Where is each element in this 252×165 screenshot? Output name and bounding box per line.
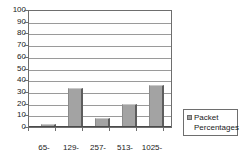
bar-129-256[interactable]	[68, 88, 83, 126]
y-tick-label: 20	[0, 100, 26, 108]
x-tick-label-line1: 129-	[63, 143, 79, 152]
legend-entry-packet-percentages[interactable]: PacketPercentages	[187, 113, 234, 132]
bar-chart: 100 90 80 70 60 50 40 30 20 10 0	[0, 0, 252, 164]
y-tick-label: 90	[0, 18, 26, 26]
x-tick-label-1025-1518: 1025- 1518	[134, 133, 170, 164]
plot-area	[28, 10, 172, 128]
x-tick-label-line1: 65-	[38, 143, 50, 152]
x-tick-mark	[82, 128, 83, 131]
legend-label: PacketPercentages	[194, 113, 239, 132]
x-tick-mark	[109, 128, 110, 131]
x-tick-label-line2: 512	[91, 162, 104, 165]
legend: PacketPercentages	[183, 109, 238, 136]
x-axis: 65- 128 129- 256 257- 512 513- 1024 1025…	[28, 133, 172, 159]
x-tick-label-line2: 128	[37, 162, 50, 165]
x-tick-mark	[28, 128, 29, 131]
x-tick-label-line1: 257-	[90, 143, 106, 152]
legend-label-line2: Percentages	[194, 123, 239, 132]
bar-257-512[interactable]	[95, 118, 110, 126]
legend-swatch-icon	[187, 115, 192, 120]
y-tick-label: 70	[0, 41, 26, 49]
x-tick-label-line1: 1025-	[142, 143, 162, 152]
y-tick-label: 10	[0, 111, 26, 119]
bar-513-1024[interactable]	[122, 104, 137, 126]
y-tick-label: 80	[0, 29, 26, 37]
x-axis-baseline	[29, 126, 171, 127]
y-tick-label: 0	[0, 123, 26, 131]
y-tick-label: 30	[0, 88, 26, 96]
x-tick-mark	[136, 128, 137, 131]
legend-label-line1: Packet	[194, 113, 218, 122]
x-tick-mark	[163, 128, 164, 131]
bars-layer	[29, 11, 171, 127]
x-tick-label-line2: 1518	[143, 162, 161, 165]
y-tick-label: 60	[0, 53, 26, 61]
x-tick-mark	[55, 128, 56, 131]
bar-1025-1518[interactable]	[149, 85, 164, 126]
x-tick-label-line1: 513-	[117, 143, 133, 152]
y-tick-label: 40	[0, 76, 26, 84]
x-tick-label-line2: 256	[64, 162, 77, 165]
y-tick-label: 100	[0, 6, 26, 14]
x-tick-label-line2: 1024	[116, 162, 134, 165]
y-axis: 100 90 80 70 60 50 40 30 20 10 0	[0, 10, 26, 128]
y-tick-label: 50	[0, 65, 26, 73]
